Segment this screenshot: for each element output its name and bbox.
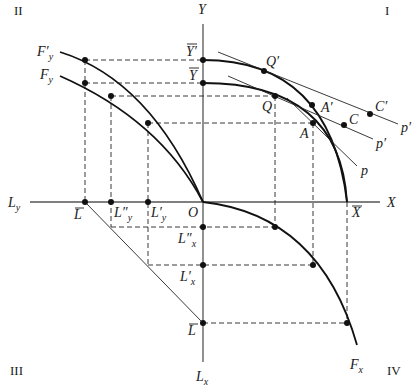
label-l-prime-x: L′x — [179, 269, 196, 287]
axis-label-ly: Ly — [7, 195, 21, 213]
points — [82, 57, 373, 326]
curve-fx — [203, 202, 357, 345]
label-q-prime: Q′ — [266, 54, 280, 69]
quadrant-label-iii: III — [10, 363, 23, 378]
label-p: p — [360, 163, 368, 178]
label-a-prime: A′ — [320, 100, 334, 115]
label-c-prime: C′ — [375, 99, 388, 114]
axis-label-lx: Lx — [195, 369, 209, 387]
label-l-double-prime-y: L″y — [113, 205, 133, 223]
label-lbar-left: L — [73, 207, 82, 222]
quadrant-label-iv: IV — [387, 363, 401, 378]
origin-label: O — [188, 205, 198, 220]
quadrant-label-ii: II — [14, 3, 23, 18]
axis-label-x: X — [386, 195, 396, 210]
axis-label-y: Y — [198, 2, 208, 17]
label-q: Q — [262, 99, 272, 114]
quadrant-label-i: I — [385, 3, 389, 18]
label-lbar-bottom: L — [187, 323, 196, 338]
label-ybar-prime: Y′ — [186, 44, 198, 59]
curve-label-fy: Fy — [39, 67, 54, 85]
curve-label-fy-prime: F′y — [36, 44, 54, 62]
label-p-prime-upper: p′ — [400, 120, 412, 135]
label-l-double-prime-x: L″x — [177, 231, 197, 249]
trade-diagram: II I III IV Y X Ly Lx O F′y Fy Fx Y′ Y X… — [0, 0, 419, 388]
label-l-prime-y: L′y — [150, 205, 167, 223]
label-a: A — [299, 126, 309, 141]
label-p-prime-lower: p′ — [375, 136, 387, 151]
labor-constraint-line — [85, 202, 203, 323]
label-xbar: X — [351, 205, 361, 220]
curve-fy-prime — [60, 52, 203, 202]
label-ybar: Y — [189, 68, 199, 83]
label-c: C — [349, 112, 359, 127]
curve-label-fx: Fx — [349, 357, 364, 375]
